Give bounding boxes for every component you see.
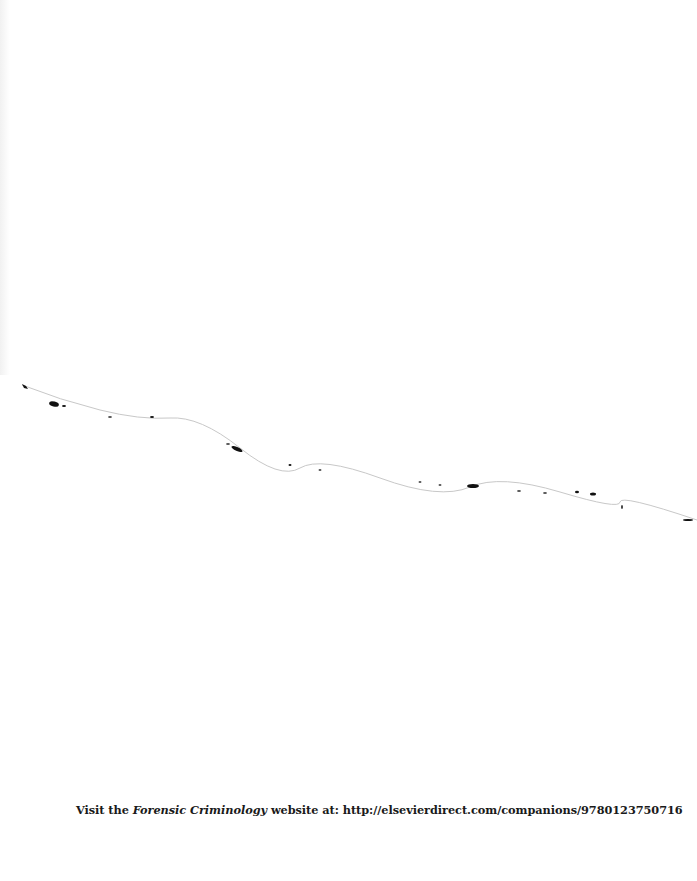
book-title: Forensic Criminology xyxy=(133,803,267,817)
caption-prefix: Visit the xyxy=(76,803,133,817)
page-edge-shadow xyxy=(0,0,10,375)
caption-url-text: website at: http://elsevierdirect.com/co… xyxy=(267,803,683,817)
torn-paper-edge xyxy=(0,370,697,530)
companion-website-caption: Visit the Forensic Criminology website a… xyxy=(76,803,676,817)
